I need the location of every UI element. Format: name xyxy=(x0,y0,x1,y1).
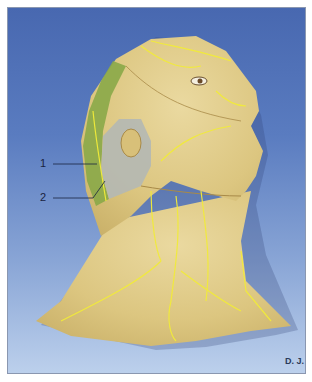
artist-credit: D. J. xyxy=(285,356,304,366)
head-neck-illustration xyxy=(8,8,306,374)
ear xyxy=(121,129,141,157)
figure-frame: 1 2 D. J. xyxy=(7,7,306,374)
label-1: 1 xyxy=(40,157,46,169)
label-2: 2 xyxy=(40,191,46,203)
